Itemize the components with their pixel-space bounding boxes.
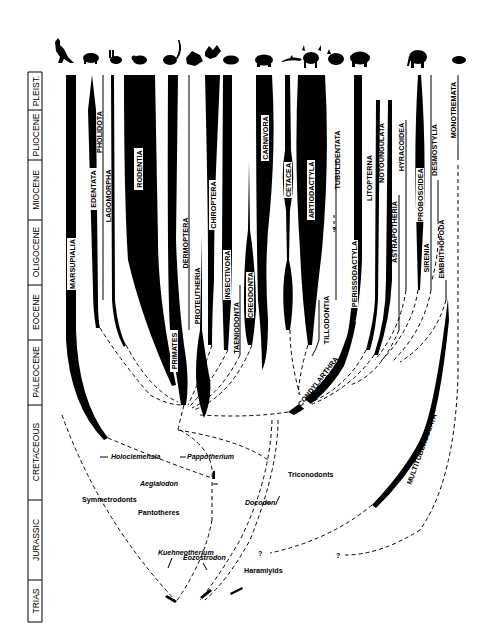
period-pliocene: PLIOCENE	[31, 113, 41, 156]
lineage-insectivora	[222, 75, 232, 350]
colugo-icon	[186, 51, 203, 66]
kangaroo-icon	[55, 38, 74, 63]
period-trias: TRIAS	[31, 588, 41, 613]
aardvark-icon	[327, 49, 344, 65]
label-proteutheria: PROTEUTHERIA	[193, 268, 202, 325]
label-desmostylia: DESMOSTYLIA	[430, 124, 439, 176]
label-tubulidentata: TUBULIDENTATA	[333, 130, 342, 189]
label-aegialodon-text: Aegialodon	[139, 480, 178, 488]
label-rodentia: RODENTIA	[135, 150, 144, 188]
label-artiodactyla: ARTIODACTYLA	[307, 162, 316, 219]
label-docodon: Docodon	[245, 499, 275, 506]
label-marsupialia: MARSUPIALIA	[68, 239, 77, 289]
taxa-labels: Holoclemensia Pappotherium Aegialodon Ae…	[82, 453, 340, 575]
dolphin-icon	[282, 55, 302, 62]
label-condylarthra: CONDYLARTHRA	[296, 355, 340, 408]
animal-silhouettes	[55, 38, 466, 68]
lemur-icon	[163, 40, 181, 65]
shrew-icon	[223, 56, 239, 65]
rhinoceros-icon	[350, 52, 370, 68]
label-edentata: EDENTATA	[89, 170, 98, 208]
label-sirenia: SIRENIA	[422, 243, 431, 272]
label-cetacea: CETACEA	[284, 163, 293, 197]
label-creodonta: CREODONTA	[246, 272, 255, 318]
period-paleocene: PALEOCENE	[31, 346, 41, 398]
period-miocene: MIOCENE	[31, 170, 41, 210]
label-primates: PRIMATES	[170, 332, 179, 369]
elephant-icon	[407, 50, 427, 68]
label-dermoptera: DERMOPTERA	[181, 217, 190, 268]
label-eozostrodon: Eozostrodon	[183, 554, 226, 561]
antelope-icon	[302, 45, 321, 68]
lineage-haramiyids	[230, 587, 243, 595]
label-pholidota: PHOLIDOTA	[95, 111, 104, 153]
lineage-cetacea	[283, 75, 294, 330]
rodent-icon	[132, 56, 148, 65]
bat-icon	[205, 45, 221, 59]
label-triconodonts: Triconodonts	[288, 470, 334, 479]
label-multituberculata: MULTITUBERCULATA	[405, 413, 439, 486]
lineage-docodon	[275, 496, 280, 505]
label-insectivora: INSECTIVORA	[223, 250, 232, 299]
period-eocene: EOCENE	[31, 294, 41, 330]
period-jurassic: JURASSIC	[31, 519, 41, 561]
label-astrapotheria: ASTRAPOTHERIA	[390, 201, 399, 263]
period-pleistocene: PLEIST.	[31, 76, 41, 107]
label-lagomorpha: LAGOMORPHA	[104, 170, 113, 223]
armadillo-icon	[83, 53, 99, 64]
label-chiroptera: CHIROPTERA	[209, 181, 218, 229]
rabbit-icon	[109, 50, 122, 64]
label-perissodactyla: PERISSODACTYLA	[350, 241, 359, 307]
uncertain-marker: ?	[336, 551, 340, 560]
label-holoclemensia: Holoclemensia	[111, 453, 161, 460]
label-carnivora: CARNIVORA	[261, 116, 270, 160]
label-monotremata: MONOTREMATA	[449, 82, 458, 138]
label-pantotheres: Pantotheres	[138, 508, 180, 517]
phylogeny-diagram: PLEIST. PLIOCENE MIOCENE OLIGOCENE EOCEN…	[0, 0, 488, 632]
label-haramiyids: Haramiyids	[244, 566, 283, 575]
lineage-eozostrodon	[200, 589, 212, 599]
geologic-time-scale: PLEIST. PLIOCENE MIOCENE OLIGOCENE EOCEN…	[28, 72, 42, 622]
uncertain-marker: ?	[332, 225, 336, 234]
lineage-lagomorpha	[111, 75, 126, 347]
label-tillodontia: TILLODONTIA	[322, 296, 331, 344]
label-litopterna: LITOPTERNA	[365, 155, 374, 201]
label-pappotherium: Pappotherium	[187, 453, 234, 461]
label-proboscidea: PROBOSCIDEA	[416, 168, 425, 222]
label-symmetrodonts: Symmetrodonts	[82, 495, 137, 504]
label-taeniodonta: TAENIODONTA	[232, 302, 241, 354]
label-embrithopoda: EMBRITHOPODA	[437, 219, 446, 278]
period-oligocene: OLIGOCENE	[31, 226, 41, 277]
period-cretaceous: CRETACEOUS	[31, 422, 41, 481]
uncertain-marker: ?	[258, 549, 262, 558]
platypus-icon	[452, 56, 466, 64]
label-notoungulata: NOTOUNGULATA	[377, 123, 386, 183]
label-hyracoidea: HYRACOIDEA	[397, 123, 406, 171]
bear-icon	[255, 55, 273, 68]
